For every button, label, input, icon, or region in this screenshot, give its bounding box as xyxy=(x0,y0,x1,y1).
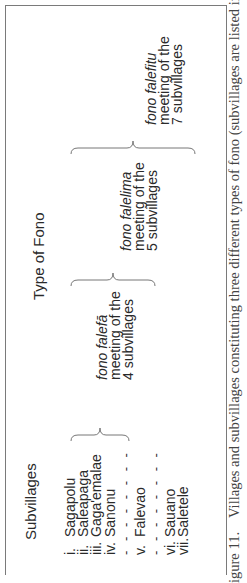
fono-type-falefitu: fono falefitu meeting of the 7 subvillag… xyxy=(145,36,184,125)
subvillages-header: Subvillages xyxy=(22,463,39,540)
type-of-fono-header: Type of Fono xyxy=(30,212,47,300)
list-item: vii.Saletele xyxy=(177,450,190,555)
list-item: iv.Sanonu xyxy=(104,450,117,555)
brace-icon xyxy=(70,423,130,443)
figure-label: igure 11. xyxy=(226,532,242,583)
subvillage-list: i.Sagapolu ii.Saleapaga iii.Gaga'emalae … xyxy=(64,450,190,555)
fono-type-falelima: fono falelima meeting of the 5 subvillag… xyxy=(120,162,159,251)
brace-icon xyxy=(70,268,156,288)
brace-icon xyxy=(70,136,196,156)
figure-caption: igure 11.Villages and subvillages consti… xyxy=(226,0,243,583)
fono-type-falefa: fono falefā meeting of the 4 subvillages xyxy=(96,291,135,380)
caption-text: Villages and subvillages constituting th… xyxy=(226,0,242,518)
list-item: v.Falevao xyxy=(134,450,147,555)
